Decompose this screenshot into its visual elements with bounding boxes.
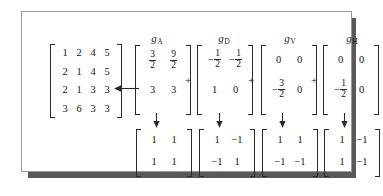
coefficient-grid: 329233 bbox=[140, 45, 186, 115]
minus-sign: − bbox=[208, 55, 214, 66]
basis-matrix-v: 11−1−1 bbox=[262, 129, 318, 177]
plus-operator-1: + bbox=[185, 74, 191, 86]
matrix-cell: −12 bbox=[334, 80, 347, 101]
matrix-cell: 3 bbox=[104, 85, 109, 96]
minus-sign: − bbox=[272, 85, 278, 96]
matrix-cell: 5 bbox=[104, 48, 109, 59]
column-header-g-v: gV bbox=[260, 32, 320, 44]
matrix-cell: −1 bbox=[231, 135, 242, 146]
matrix-cell: −32 bbox=[272, 80, 285, 101]
coefficient-matrix-g-h: 00−120 bbox=[323, 45, 379, 115]
basis-grid: 1111 bbox=[141, 129, 187, 177]
source-matrix: 1245214521333633 bbox=[50, 44, 122, 118]
fraction-numerator: 1 bbox=[214, 49, 221, 59]
down-arrow-icon-1 bbox=[153, 113, 160, 128]
basis-grid: 1−11−1 bbox=[329, 129, 375, 177]
matrix-cell: 1 bbox=[339, 157, 344, 168]
matrix-cell: 1 bbox=[76, 85, 81, 96]
minus-sign: − bbox=[334, 85, 340, 96]
matrix-cell: 1 bbox=[171, 135, 176, 146]
coefficient-matrix-g-a: 329233 bbox=[135, 45, 191, 115]
fraction-numerator: 3 bbox=[149, 50, 156, 60]
fraction-numerator: 1 bbox=[340, 79, 347, 89]
fraction: 32 bbox=[149, 50, 156, 71]
matrix-cell: 2 bbox=[62, 67, 67, 78]
fraction-numerator: 1 bbox=[235, 49, 242, 59]
figure-panel: gA gD gV gH 1245214521333633 329233 bbox=[21, 11, 352, 172]
matrix-cell: −12 bbox=[208, 50, 221, 71]
matrix-cell: 0 bbox=[359, 55, 364, 66]
matrix-cell: 3 bbox=[150, 85, 155, 96]
matrix-cell: 0 bbox=[338, 55, 343, 66]
matrix-cell: 0 bbox=[276, 55, 281, 66]
plus-operator-2: + bbox=[248, 74, 254, 86]
matrix-cell: 1 bbox=[277, 135, 282, 146]
fraction: 12 bbox=[340, 79, 347, 100]
matrix-cell: 1 bbox=[339, 135, 344, 146]
matrix-cell: 1 bbox=[151, 135, 156, 146]
matrix-cell: −1 bbox=[356, 157, 367, 168]
matrix-cell: 4 bbox=[90, 48, 95, 59]
coefficient-grid: 00−320 bbox=[266, 45, 312, 115]
matrix-cell: 1 bbox=[62, 48, 67, 59]
down-arrow-icon-3 bbox=[279, 113, 286, 128]
matrix-cell: 3 bbox=[90, 104, 95, 115]
matrix-cell: 3 bbox=[171, 85, 176, 96]
column-header-g-h: gH bbox=[322, 32, 382, 44]
fraction-denominator: 2 bbox=[214, 59, 221, 70]
down-arrow-icon-2 bbox=[216, 113, 223, 128]
matrix-cell: 3 bbox=[104, 104, 109, 115]
basis-grid: 1−1−11 bbox=[204, 129, 250, 177]
column-header-g-d: gD bbox=[194, 32, 254, 44]
bracket-right bbox=[313, 129, 318, 177]
bracket-right bbox=[187, 129, 192, 177]
matrix-cell: 2 bbox=[62, 85, 67, 96]
matrix-cell: 6 bbox=[76, 104, 81, 115]
fraction-denominator: 2 bbox=[340, 89, 347, 100]
matrix-cell: −1 bbox=[274, 157, 285, 168]
basis-matrix-a: 1111 bbox=[136, 129, 192, 177]
basis-grid: 11−1−1 bbox=[267, 129, 313, 177]
matrix-cell: 3 bbox=[62, 104, 67, 115]
coefficient-grid: 00−120 bbox=[328, 45, 374, 115]
basis-matrix-h: 1−11−1 bbox=[324, 129, 380, 177]
matrix-cell: 92 bbox=[170, 49, 177, 71]
matrix-cell: 4 bbox=[90, 67, 95, 78]
down-arrow-icon-4 bbox=[341, 113, 348, 128]
coefficient-matrix-g-v: 00−320 bbox=[261, 45, 317, 115]
basis-matrix-d: 1−1−11 bbox=[199, 129, 255, 177]
matrix-cell: −1 bbox=[294, 157, 305, 168]
fraction-numerator: 3 bbox=[278, 79, 285, 89]
matrix-cell: −1 bbox=[211, 157, 222, 168]
fraction-denominator: 2 bbox=[278, 89, 285, 100]
fraction-denominator: 2 bbox=[235, 59, 242, 70]
matrix-cell: 0 bbox=[297, 55, 302, 66]
fraction: 12 bbox=[235, 49, 242, 70]
matrix-cell: −1 bbox=[356, 135, 367, 146]
matrix-cell: 1 bbox=[234, 157, 239, 168]
matrix-cell: 1 bbox=[212, 85, 217, 96]
fraction-denominator: 2 bbox=[170, 60, 177, 71]
matrix-cell: 0 bbox=[233, 85, 238, 96]
matrix-cell: 0 bbox=[359, 85, 364, 96]
bracket-right bbox=[375, 129, 380, 177]
fraction: 12 bbox=[214, 49, 221, 70]
figure-container: gA gD gV gH 1245214521333633 329233 bbox=[0, 0, 383, 196]
source-matrix-grid: 1245214521333633 bbox=[55, 44, 117, 118]
matrix-cell: 32 bbox=[149, 49, 156, 71]
column-header-g-a: gA bbox=[127, 32, 187, 44]
matrix-cell: 0 bbox=[297, 85, 302, 96]
bracket-right bbox=[374, 45, 379, 115]
matrix-cell: 1 bbox=[214, 135, 219, 146]
coefficient-grid: −12−1210 bbox=[202, 45, 248, 115]
fraction: 32 bbox=[278, 79, 285, 100]
matrix-cell: −12 bbox=[229, 50, 242, 71]
matrix-cell: 1 bbox=[297, 135, 302, 146]
fraction-numerator: 9 bbox=[170, 50, 177, 60]
matrix-cell: 1 bbox=[171, 157, 176, 168]
matrix-cell: 5 bbox=[104, 67, 109, 78]
matrix-cell: 1 bbox=[151, 157, 156, 168]
fraction-denominator: 2 bbox=[149, 60, 156, 71]
bracket-right bbox=[250, 129, 255, 177]
matrix-cell: 1 bbox=[76, 67, 81, 78]
